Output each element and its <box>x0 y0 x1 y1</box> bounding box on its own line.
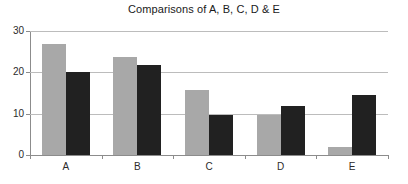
x-tick-label-C: C <box>189 161 229 173</box>
x-tick-mark-1 <box>102 155 103 159</box>
x-tick-mark-0 <box>30 155 31 159</box>
x-tick-mark-3 <box>245 155 246 159</box>
chart-title: Comparisons of A, B, C, D & E <box>0 3 408 16</box>
y-tick-label-30: 30 <box>13 26 24 36</box>
plot-area <box>30 31 388 155</box>
bar-C-series-1 <box>185 90 209 155</box>
bar-C-series-2 <box>209 115 233 156</box>
gridline-30 <box>30 31 388 32</box>
x-tick-label-E: E <box>332 161 372 173</box>
x-tick-mark-2 <box>173 155 174 159</box>
bar-D-series-1 <box>257 115 281 155</box>
x-tick-mark-5 <box>388 155 389 159</box>
bar-D-series-2 <box>281 106 305 155</box>
x-tick-label-D: D <box>261 161 301 173</box>
y-tick-label-10: 10 <box>13 109 24 119</box>
bar-B-series-2 <box>137 65 161 155</box>
x-tick-label-A: A <box>46 161 86 173</box>
bar-E-series-1 <box>328 147 352 155</box>
gridline-0 <box>30 155 388 156</box>
bar-chart-figure: Comparisons of A, B, C, D & E 0102030 AB… <box>0 0 408 184</box>
bar-E-series-2 <box>352 95 376 155</box>
bar-B-series-1 <box>113 57 137 155</box>
x-tick-mark-4 <box>316 155 317 159</box>
x-tick-label-B: B <box>117 161 157 173</box>
y-tick-label-0: 0 <box>18 150 24 160</box>
y-tick-label-20: 20 <box>13 67 24 77</box>
bar-A-series-2 <box>66 72 90 155</box>
bar-A-series-1 <box>42 44 66 155</box>
